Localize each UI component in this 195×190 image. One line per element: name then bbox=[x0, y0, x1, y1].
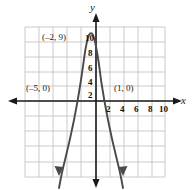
y-axis-arrow-up bbox=[93, 13, 100, 22]
x-tick-label-6: 6 bbox=[134, 104, 139, 114]
y-tick-label-4: 4 bbox=[88, 77, 93, 87]
y-tick-label-10: 10 bbox=[85, 33, 94, 43]
x-tick-label-2: 2 bbox=[106, 104, 111, 114]
parabola-graph-figure: y x (–2, 9) (–5, 0) (1, 0) 10 8 6 4 2 2 … bbox=[0, 0, 195, 190]
coordinate-plane bbox=[0, 0, 195, 190]
y-tick-label-8: 8 bbox=[88, 48, 93, 58]
y-axis-arrow-down bbox=[93, 179, 100, 188]
y-axis-label: y bbox=[90, 2, 95, 13]
x-tick-label-4: 4 bbox=[120, 104, 125, 114]
x-axis-arrow-left bbox=[8, 98, 17, 105]
x-tick-label-10: 10 bbox=[159, 104, 168, 114]
vertex-point-label: (–2, 9) bbox=[42, 33, 66, 42]
grid-lines bbox=[25, 27, 165, 177]
y-tick-label-6: 6 bbox=[88, 63, 93, 73]
x-tick-label-8: 8 bbox=[148, 104, 153, 114]
y-tick-label-2: 2 bbox=[88, 90, 93, 100]
right-intercept-point-label: (1, 0) bbox=[114, 84, 134, 93]
x-axis-label: x bbox=[181, 95, 186, 106]
left-intercept-point-label: (–5, 0) bbox=[26, 84, 50, 93]
x-axis bbox=[8, 98, 182, 105]
